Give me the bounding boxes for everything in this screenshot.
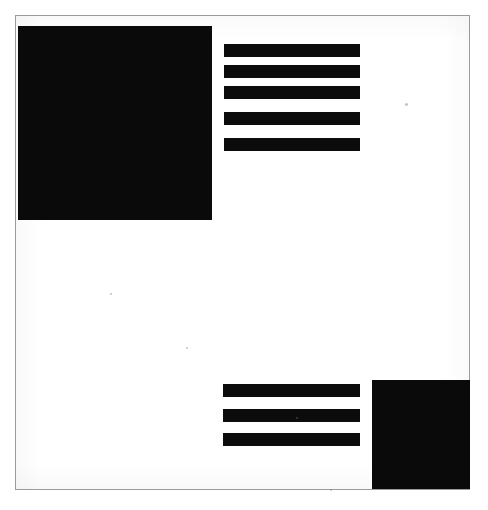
image-title: Abstract black and white geometric patte… xyxy=(0,0,1,1)
lower-bar-2 xyxy=(223,409,360,422)
image-description: High-contrast scanned graphic with solid… xyxy=(0,0,1,1)
image-canvas: Abstract black and white geometric patte… xyxy=(0,0,488,510)
lower-bar-1 xyxy=(223,384,360,397)
lower-bar-3 xyxy=(223,433,360,446)
bottom-right-square xyxy=(372,380,470,489)
speck-5 xyxy=(330,489,332,491)
paper-frame xyxy=(15,15,470,490)
